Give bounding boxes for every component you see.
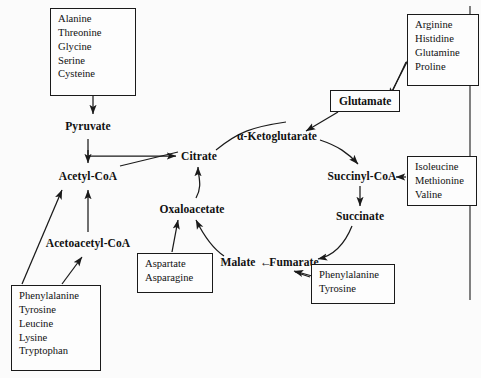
aa-serine: Serine	[58, 54, 128, 68]
aa-lysine: Lysine	[19, 331, 93, 345]
edge-aspartate-to-oxaloacetate	[172, 220, 178, 252]
node-succinyl-coa[interactable]: Succinyl-CoA	[328, 169, 397, 183]
edge-ketoglutarate-to-succinylcoa	[320, 140, 358, 164]
aa-glutamine: Glutamine	[415, 46, 471, 60]
aa-tyrosine-fumarate: Tyrosine	[319, 283, 387, 297]
aa-glycine: Glycine	[58, 40, 128, 54]
aa-leucine: Leucine	[19, 317, 93, 331]
aa-alanine: Alanine	[58, 13, 128, 27]
aa-aspartate: Aspartate	[145, 258, 205, 272]
aa-isoleucine: Isoleucine	[415, 161, 469, 175]
edge-oxaloacetate-to-citrate	[196, 167, 200, 198]
aa-methionine: Methionine	[415, 175, 469, 189]
aa-tyrosine: Tyrosine	[19, 304, 93, 318]
aa-phenylalanine: Phenylalanine	[19, 290, 93, 304]
node-malate[interactable]: Malate	[220, 255, 255, 269]
aa-asparagine: Asparagine	[145, 272, 205, 286]
aa-threonine: Threonine	[58, 27, 128, 41]
aa-phenylalanine-fumarate: Phenylalanine	[319, 269, 387, 283]
node-alpha-ketoglutarate[interactable]: α-Ketoglutarate	[237, 129, 317, 143]
edge-succinate-to-fumarate	[318, 226, 352, 259]
edge-ketogenic-to-acetoacetyl	[62, 257, 82, 284]
edge-pyruvate-to-citrate	[88, 150, 176, 156]
metabolic-pathway-diagram: Pyruvate Acetyl-CoA Acetoacetyl-CoA Citr…	[0, 0, 481, 378]
node-acetyl-coa[interactable]: Acetyl-CoA	[59, 169, 117, 183]
group-box-aspartate-family[interactable]: Aspartate Asparagine	[137, 253, 213, 293]
node-oxaloacetate[interactable]: Oxaloacetate	[159, 202, 224, 216]
group-box-ketogenic-family[interactable]: Phenylalanine Tyrosine Leucine Lysine Tr…	[11, 285, 101, 371]
node-succinate[interactable]: Succinate	[336, 209, 384, 223]
edge-malate-to-oxaloacetate	[196, 220, 224, 256]
aa-valine: Valine	[415, 188, 469, 202]
node-glutamate[interactable]: Glutamate	[330, 90, 400, 112]
edge-acetylcoa-to-citrate	[120, 152, 178, 166]
arrow-fumarate-to-malate: ←	[260, 255, 272, 270]
group-box-glutamate-family[interactable]: Arginine Histidine Glutamine Proline	[407, 14, 479, 86]
aa-tryptophan: Tryptophan	[19, 345, 93, 359]
aa-proline: Proline	[415, 60, 471, 74]
aa-cysteine: Cysteine	[58, 68, 128, 82]
node-citrate[interactable]: Citrate	[181, 149, 217, 163]
aa-arginine: Arginine	[415, 19, 471, 33]
group-box-succinyl-family[interactable]: Isoleucine Methionine Valine	[407, 156, 477, 206]
node-pyruvate[interactable]: Pyruvate	[65, 119, 111, 133]
aa-histidine: Histidine	[415, 33, 471, 47]
group-box-fumarate-family[interactable]: Phenylalanine Tyrosine	[311, 264, 395, 304]
edge-phetyr-to-fumarate	[294, 271, 312, 276]
node-acetoacetyl-coa[interactable]: Acetoacetyl-CoA	[46, 236, 131, 250]
group-box-serine-family[interactable]: Alanine Threonine Glycine Serine Cystein…	[50, 8, 136, 96]
